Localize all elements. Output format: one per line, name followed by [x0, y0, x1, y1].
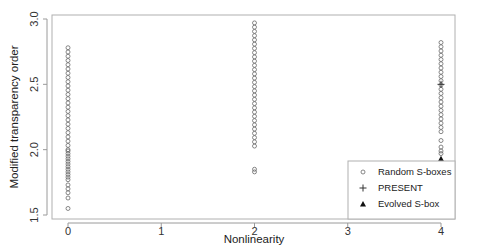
random-sbox-point [66, 178, 70, 182]
random-sbox-point [439, 108, 443, 112]
random-sbox-point [66, 109, 70, 113]
random-sbox-point [439, 113, 443, 117]
scatter-chart: 1.52.02.53.0 01234 Nonlinearity Modified… [0, 0, 480, 251]
random-sbox-point [253, 89, 257, 93]
random-sbox-point [253, 136, 257, 140]
legend-label: Evolved S-box [378, 198, 440, 209]
random-sbox-point [66, 187, 70, 191]
random-sbox-point [439, 100, 443, 104]
random-sbox-point [253, 63, 257, 67]
random-sbox-point [66, 71, 70, 75]
random-sbox-point [253, 123, 257, 127]
random-sbox-point [66, 63, 70, 67]
random-sbox-point [439, 104, 443, 108]
random-sbox-point [253, 140, 257, 144]
random-sbox-point [253, 59, 257, 63]
random-sbox-point [253, 38, 257, 42]
random-sbox-point [253, 21, 257, 25]
x-tick-label: 0 [65, 225, 71, 237]
random-sbox-point [439, 91, 443, 95]
random-sbox-point [439, 49, 443, 53]
random-sbox-point [439, 145, 443, 149]
random-sbox-point [66, 206, 70, 210]
legend: Random S-boxesPRESENTEvolved S-box [348, 161, 455, 219]
random-sbox-point [439, 45, 443, 49]
random-sbox-point [253, 42, 257, 46]
x-tick-label: 4 [438, 225, 444, 237]
random-sbox-point [253, 55, 257, 59]
random-sbox-point [66, 58, 70, 62]
y-tick-label: 3.0 [28, 11, 40, 26]
random-sbox-point [66, 97, 70, 101]
random-sbox-point [253, 25, 257, 29]
random-sbox-point [66, 118, 70, 122]
random-sbox-point [66, 143, 70, 147]
x-axis-title: Nonlinearity [224, 233, 285, 245]
y-tick-label: 2.0 [28, 142, 40, 157]
random-sbox-point [439, 53, 443, 57]
random-sbox-point [253, 106, 257, 110]
random-sbox-point [66, 126, 70, 130]
random-sbox-point [253, 46, 257, 50]
random-sbox-point [253, 34, 257, 38]
y-axis-title: Modified transparency order [8, 45, 20, 188]
random-sbox-point [439, 139, 443, 143]
random-sbox-point [253, 85, 257, 89]
random-sbox-point [439, 117, 443, 121]
random-sbox-point [439, 66, 443, 70]
random-sbox-point [66, 84, 70, 88]
random-sbox-point [253, 80, 257, 84]
random-sbox-point [66, 196, 70, 200]
random-sbox-point [253, 68, 257, 72]
random-sbox-point [253, 29, 257, 33]
random-sbox-point [439, 70, 443, 74]
random-sbox-point [66, 80, 70, 84]
random-sbox-point [439, 74, 443, 78]
random-sbox-point [66, 105, 70, 109]
random-sbox-point [439, 62, 443, 66]
random-sbox-point [253, 97, 257, 101]
legend-label: PRESENT [378, 182, 423, 193]
random-sbox-point [253, 93, 257, 97]
random-sbox-point [439, 58, 443, 62]
random-sbox-point [253, 110, 257, 114]
random-sbox-point [66, 75, 70, 79]
random-sbox-point [66, 135, 70, 139]
random-sbox-point [66, 183, 70, 187]
random-sbox-point [253, 119, 257, 123]
random-sbox-point [253, 131, 257, 135]
random-sbox-point [66, 67, 70, 71]
random-sbox-point [66, 50, 70, 54]
random-sbox-point [439, 125, 443, 129]
y-tick-label: 1.5 [28, 207, 40, 222]
present-point [438, 81, 445, 88]
random-sbox-point [439, 121, 443, 125]
random-sbox-point [66, 139, 70, 143]
random-sbox-point [66, 191, 70, 195]
random-sbox-point [66, 101, 70, 105]
random-sbox-point [253, 51, 257, 55]
random-sbox-point [66, 54, 70, 58]
random-sbox-point [66, 114, 70, 118]
x-tick-label: 1 [158, 225, 164, 237]
y-tick-label: 2.5 [28, 77, 40, 92]
random-sbox-point [253, 72, 257, 76]
random-sbox-point [66, 131, 70, 135]
random-sbox-point [253, 76, 257, 80]
y-axis: 1.52.02.53.0 [28, 11, 47, 222]
random-sbox-point [253, 102, 257, 106]
random-sbox-point [66, 92, 70, 96]
random-sbox-point [439, 152, 443, 156]
x-tick-label: 3 [345, 225, 351, 237]
random-sbox-point [439, 41, 443, 45]
random-sbox-point [253, 170, 257, 174]
random-sbox-point [66, 46, 70, 50]
random-sbox-point [439, 130, 443, 134]
random-sbox-point [253, 144, 257, 148]
evolved-sbox-point [438, 156, 444, 162]
random-sbox-point [439, 96, 443, 100]
random-sbox-point [66, 122, 70, 126]
legend-label: Random S-boxes [378, 166, 452, 177]
random-sbox-point [253, 127, 257, 131]
random-sbox-point [66, 88, 70, 92]
